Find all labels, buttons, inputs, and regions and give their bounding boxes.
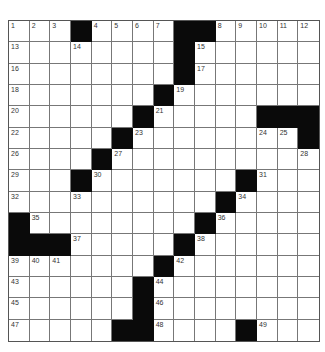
grid-cell[interactable] xyxy=(154,64,175,85)
grid-cell[interactable]: 27 xyxy=(112,149,133,170)
grid-cell[interactable] xyxy=(112,64,133,85)
grid-cell[interactable] xyxy=(112,213,133,234)
grid-cell[interactable] xyxy=(92,192,113,213)
grid-cell[interactable] xyxy=(112,192,133,213)
grid-cell[interactable] xyxy=(154,128,175,149)
grid-cell[interactable] xyxy=(195,298,216,319)
grid-cell[interactable] xyxy=(195,128,216,149)
grid-cell[interactable] xyxy=(30,277,51,298)
grid-cell[interactable]: 15 xyxy=(195,42,216,63)
grid-cell[interactable] xyxy=(71,298,92,319)
grid-cell[interactable] xyxy=(298,64,319,85)
grid-cell[interactable] xyxy=(133,192,154,213)
grid-cell[interactable] xyxy=(154,192,175,213)
grid-cell[interactable]: 21 xyxy=(154,106,175,127)
grid-cell[interactable] xyxy=(92,277,113,298)
grid-cell[interactable]: 33 xyxy=(71,192,92,213)
grid-cell[interactable] xyxy=(50,170,71,191)
grid-cell[interactable]: 10 xyxy=(257,21,278,42)
grid-cell[interactable] xyxy=(30,298,51,319)
grid-cell[interactable]: 3 xyxy=(50,21,71,42)
grid-cell[interactable] xyxy=(174,106,195,127)
grid-cell[interactable] xyxy=(216,128,237,149)
grid-cell[interactable] xyxy=(133,85,154,106)
grid-cell[interactable] xyxy=(133,64,154,85)
grid-cell[interactable] xyxy=(112,298,133,319)
grid-cell[interactable] xyxy=(92,85,113,106)
grid-cell[interactable] xyxy=(154,213,175,234)
grid-cell[interactable] xyxy=(174,128,195,149)
grid-cell[interactable] xyxy=(298,277,319,298)
grid-cell[interactable] xyxy=(257,298,278,319)
grid-cell[interactable] xyxy=(195,149,216,170)
grid-cell[interactable] xyxy=(30,106,51,127)
grid-cell[interactable] xyxy=(236,277,257,298)
grid-cell[interactable] xyxy=(216,64,237,85)
grid-cell[interactable] xyxy=(112,42,133,63)
grid-cell[interactable] xyxy=(30,192,51,213)
grid-cell[interactable] xyxy=(174,277,195,298)
grid-cell[interactable]: 31 xyxy=(257,170,278,191)
grid-cell[interactable] xyxy=(195,256,216,277)
grid-cell[interactable] xyxy=(216,170,237,191)
grid-cell[interactable] xyxy=(236,234,257,255)
grid-cell[interactable] xyxy=(30,128,51,149)
grid-cell[interactable] xyxy=(112,170,133,191)
grid-cell[interactable] xyxy=(50,213,71,234)
grid-cell[interactable] xyxy=(30,320,51,341)
grid-cell[interactable] xyxy=(236,64,257,85)
grid-cell[interactable] xyxy=(257,213,278,234)
grid-cell[interactable] xyxy=(278,85,299,106)
grid-cell[interactable] xyxy=(278,64,299,85)
grid-cell[interactable] xyxy=(71,149,92,170)
grid-cell[interactable]: 11 xyxy=(278,21,299,42)
grid-cell[interactable]: 47 xyxy=(9,320,30,341)
grid-cell[interactable] xyxy=(50,277,71,298)
grid-cell[interactable] xyxy=(92,42,113,63)
grid-cell[interactable] xyxy=(298,298,319,319)
grid-cell[interactable] xyxy=(71,213,92,234)
grid-cell[interactable] xyxy=(195,85,216,106)
grid-cell[interactable]: 46 xyxy=(154,298,175,319)
grid-cell[interactable] xyxy=(278,213,299,234)
grid-cell[interactable]: 30 xyxy=(92,170,113,191)
grid-cell[interactable] xyxy=(133,234,154,255)
grid-cell[interactable]: 5 xyxy=(112,21,133,42)
grid-cell[interactable] xyxy=(154,149,175,170)
grid-cell[interactable] xyxy=(112,106,133,127)
grid-cell[interactable] xyxy=(50,149,71,170)
grid-cell[interactable] xyxy=(112,277,133,298)
grid-cell[interactable] xyxy=(257,234,278,255)
grid-cell[interactable]: 24 xyxy=(257,128,278,149)
grid-cell[interactable] xyxy=(30,42,51,63)
grid-cell[interactable]: 9 xyxy=(236,21,257,42)
grid-cell[interactable] xyxy=(92,320,113,341)
grid-cell[interactable] xyxy=(92,256,113,277)
grid-cell[interactable] xyxy=(257,277,278,298)
grid-cell[interactable] xyxy=(154,234,175,255)
grid-cell[interactable] xyxy=(236,42,257,63)
grid-cell[interactable] xyxy=(236,85,257,106)
grid-cell[interactable] xyxy=(50,128,71,149)
grid-cell[interactable] xyxy=(216,85,237,106)
grid-cell[interactable] xyxy=(174,320,195,341)
grid-cell[interactable] xyxy=(112,234,133,255)
grid-cell[interactable] xyxy=(50,106,71,127)
grid-cell[interactable] xyxy=(236,128,257,149)
grid-cell[interactable]: 20 xyxy=(9,106,30,127)
grid-cell[interactable] xyxy=(278,192,299,213)
grid-cell[interactable] xyxy=(216,106,237,127)
grid-cell[interactable]: 23 xyxy=(133,128,154,149)
grid-cell[interactable] xyxy=(298,234,319,255)
grid-cell[interactable]: 25 xyxy=(278,128,299,149)
grid-cell[interactable] xyxy=(92,213,113,234)
grid-cell[interactable] xyxy=(50,85,71,106)
grid-cell[interactable] xyxy=(298,320,319,341)
grid-cell[interactable]: 45 xyxy=(9,298,30,319)
grid-cell[interactable] xyxy=(298,192,319,213)
grid-cell[interactable] xyxy=(133,42,154,63)
grid-cell[interactable] xyxy=(50,64,71,85)
grid-cell[interactable]: 44 xyxy=(154,277,175,298)
grid-cell[interactable] xyxy=(92,234,113,255)
grid-cell[interactable] xyxy=(71,128,92,149)
